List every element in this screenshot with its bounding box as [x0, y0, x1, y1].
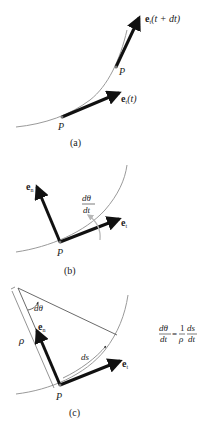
curvature-equation: dθ dt = 1 ρ ds dt — [159, 323, 197, 344]
label-en: en — [26, 181, 33, 193]
label-dtheta-num: dθ — [82, 193, 92, 203]
label-ds: ds — [81, 352, 90, 362]
eq-rhs-den: dt — [188, 334, 196, 344]
panel-c: dθ en ρ ds et P (c) dθ dt = 1 ρ ds dt — [11, 287, 197, 419]
eq-rhs-num: ds — [187, 323, 196, 333]
rho-tick-top — [11, 287, 15, 289]
radius-line-2 — [18, 288, 117, 335]
caption-b: (b) — [64, 265, 76, 277]
label-dtheta: dθ — [34, 303, 44, 313]
ds-arc — [63, 346, 106, 378]
label-dtheta-den: dt — [83, 205, 91, 215]
label-p-upper: P — [118, 66, 125, 77]
eq-one: 1 — [180, 323, 185, 333]
tangent-vector — [60, 219, 119, 242]
caption-a: (a) — [70, 137, 81, 149]
label-p: P — [55, 391, 62, 402]
eq-lhs-den: dt — [160, 334, 168, 344]
normal-vector — [37, 331, 60, 385]
panel-a: et(t + dt) et(t) P P (a) — [16, 13, 181, 149]
eq-rho: ρ — [178, 334, 184, 344]
eq-equals: = — [172, 329, 177, 339]
label-et: et — [121, 217, 127, 229]
point-p-upper — [115, 66, 118, 69]
label-en: en — [38, 321, 45, 333]
label-p: P — [56, 247, 63, 258]
label-et: et — [122, 358, 128, 370]
tangent-vector-t-dt — [116, 18, 139, 67]
normal-vector — [37, 187, 60, 242]
label-et-t: et(t) — [121, 93, 137, 105]
point-p — [59, 241, 62, 244]
label-rho: ρ — [18, 334, 24, 346]
kinematics-diagram: et(t + dt) et(t) P P (a) en et dθ dt P (… — [0, 0, 211, 428]
label-p-lower: P — [57, 121, 64, 132]
label-et-t-dt: et(t + dt) — [145, 13, 181, 25]
caption-c: (c) — [69, 407, 80, 419]
point-p-lower — [61, 116, 64, 119]
panel-b: en et dθ dt P (b) — [16, 165, 127, 277]
eq-lhs-num: dθ — [159, 323, 169, 333]
point-p — [59, 384, 62, 387]
tangent-vector-t — [62, 93, 119, 117]
